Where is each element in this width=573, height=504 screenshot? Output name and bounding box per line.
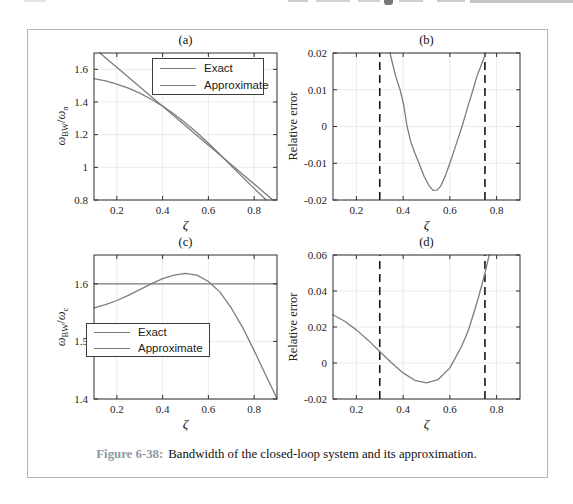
- cropped-text-remnant: [399, 0, 423, 2]
- legend-c: Exact Approximate: [86, 323, 210, 357]
- legend-line-sample: [94, 348, 130, 349]
- legend-entry-approximate: Approximate: [153, 77, 263, 94]
- cropped-text-remnant: [437, 0, 465, 2]
- legend-a: Exact Approximate: [152, 58, 264, 95]
- y-axis-label-omega-bw-over-omega-n: ωBW/ωn: [54, 106, 71, 145]
- figure-caption: Figure 6-38:Bandwidth of the closed-loop…: [0, 447, 573, 462]
- y-axis-label-relative-error: Relative error: [286, 91, 301, 160]
- legend-line-sample: [160, 68, 196, 69]
- figure-caption-number: Figure 6-38:: [96, 447, 163, 461]
- legend-label: Exact: [204, 62, 233, 74]
- legend-line-sample: [94, 332, 130, 333]
- cropped-text-remnant: [316, 0, 350, 2]
- cropped-text-remnant: [470, 0, 573, 3]
- figure-caption-text: Bandwidth of the closed-loop system and …: [168, 447, 477, 461]
- legend-entry-exact: Exact: [87, 324, 209, 340]
- legend-entry-approximate: Approximate: [87, 340, 209, 356]
- cropped-text-remnant: [384, 0, 393, 5]
- legend-line-sample: [160, 85, 196, 86]
- cropped-text-remnant: [24, 0, 46, 2]
- y-axis-label-omega-bw-over-omega-c: ωBW/ωc: [54, 308, 71, 347]
- cropped-text-remnant: [358, 0, 380, 2]
- legend-label: Approximate: [204, 79, 269, 91]
- legend-label: Approximate: [138, 342, 203, 354]
- legend-entry-exact: Exact: [153, 60, 263, 77]
- page-background: 0.20.40.60.80.811.21.41.6(a)ζ0.20.40.60.…: [0, 0, 573, 504]
- legend-label: Exact: [138, 326, 167, 338]
- cropped-text-remnant: [288, 0, 308, 2]
- y-axis-label-relative-error: Relative error: [286, 292, 301, 361]
